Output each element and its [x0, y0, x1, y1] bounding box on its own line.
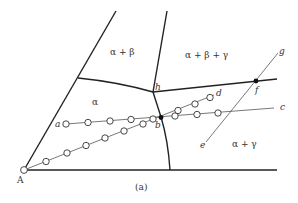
alpha-beta-boundary-curve	[78, 78, 153, 92]
label-d: d	[216, 88, 222, 98]
marker	[121, 128, 127, 134]
upper-boundary-line	[153, 11, 167, 92]
marker	[83, 142, 89, 148]
marker	[102, 135, 108, 141]
point-f-dot	[254, 79, 259, 84]
marker	[215, 110, 221, 116]
tie-lines	[24, 53, 278, 170]
label-g: g	[279, 46, 285, 56]
marker	[64, 150, 70, 156]
marker	[192, 101, 198, 107]
marker	[85, 119, 91, 125]
line-a-c	[66, 108, 274, 124]
marker	[63, 121, 69, 127]
region-alpha-beta-gamma: α + β + γ	[185, 50, 228, 60]
phase-diagram: α + β α + β + γ α α + γ a b c d e f g h …	[0, 0, 298, 203]
region-alpha-beta: α + β	[110, 47, 135, 57]
label-c: c	[280, 102, 285, 112]
marker	[21, 167, 28, 174]
label-a: a	[55, 119, 60, 129]
markers-A-d	[21, 94, 214, 173]
h-b-bottom-boundary-curve	[153, 92, 170, 170]
marker	[43, 158, 49, 164]
region-alpha-gamma: α + γ	[232, 139, 257, 149]
marker	[107, 118, 113, 124]
marker	[194, 111, 200, 117]
left-boundary-line	[24, 11, 116, 170]
marker	[207, 94, 213, 100]
label-e: e	[200, 140, 205, 150]
marker	[175, 107, 181, 113]
marker	[128, 116, 134, 122]
region-alpha: α	[92, 97, 98, 107]
label-b: b	[155, 120, 161, 130]
line-A-d	[24, 95, 214, 170]
label-f: f	[254, 85, 260, 95]
label-A: A	[16, 175, 24, 185]
figure-caption: (a)	[135, 182, 147, 192]
label-h: h	[155, 82, 161, 92]
h-f-boundary-line	[153, 79, 277, 92]
marker	[140, 121, 146, 127]
